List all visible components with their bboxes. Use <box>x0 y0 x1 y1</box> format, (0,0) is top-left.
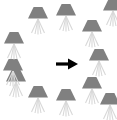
lamp-icon <box>1 30 27 60</box>
arrow-right-icon <box>56 58 78 70</box>
lamp-icon <box>86 47 112 77</box>
lamp-icon <box>25 5 51 35</box>
lamp-icon <box>97 91 117 120</box>
lamp-icon <box>25 84 51 114</box>
lamp-icon <box>79 75 105 105</box>
lamp-icon <box>53 87 79 117</box>
lamp-icon <box>53 2 79 32</box>
lamp-icon <box>79 18 105 48</box>
lamp-icon <box>0 57 26 87</box>
lamp-icon <box>3 68 29 98</box>
lamp-icon <box>100 0 117 27</box>
figure-canvas <box>0 0 117 120</box>
